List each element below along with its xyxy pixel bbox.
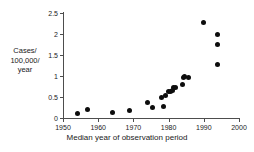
x-axis-label: Median year of observation period bbox=[0, 133, 254, 142]
y-tick-mark bbox=[60, 76, 63, 77]
chart-title bbox=[0, 0, 254, 3]
x-tick-mark bbox=[239, 119, 240, 122]
data-point bbox=[127, 108, 132, 113]
y-tick-mark bbox=[60, 97, 63, 98]
y-axis-label-line-2: 100,000/ bbox=[0, 56, 50, 66]
chart-figure: Cases/ 100,000/ year 00.511.522.5 195019… bbox=[0, 0, 254, 152]
y-axis-label-line-1: Cases/ bbox=[0, 46, 50, 56]
x-tick-label: 1980 bbox=[161, 124, 177, 131]
x-tick-mark bbox=[98, 119, 99, 122]
data-point bbox=[85, 107, 90, 112]
data-point bbox=[215, 32, 220, 37]
y-tick-label: 2.5 bbox=[48, 10, 58, 17]
data-point bbox=[110, 110, 115, 115]
y-axis-label-line-3: year bbox=[0, 65, 50, 75]
y-tick-label: 2 bbox=[54, 31, 58, 38]
y-tick-label: 1.5 bbox=[48, 52, 58, 59]
x-tick-mark bbox=[63, 119, 64, 122]
y-tick-mark bbox=[60, 55, 63, 56]
x-tick-mark bbox=[204, 119, 205, 122]
y-tick-label: 1 bbox=[54, 73, 58, 80]
data-point bbox=[75, 111, 80, 116]
y-tick-label: 0 bbox=[54, 115, 58, 122]
data-point bbox=[145, 100, 150, 105]
x-tick-label: 1990 bbox=[196, 124, 212, 131]
x-tick-label: 2000 bbox=[231, 124, 247, 131]
y-tick-label: 0.5 bbox=[48, 94, 58, 101]
data-point bbox=[215, 62, 220, 67]
data-point bbox=[201, 20, 206, 25]
x-tick-mark bbox=[133, 119, 134, 122]
x-tick-mark bbox=[169, 119, 170, 122]
data-point bbox=[180, 82, 185, 87]
data-point bbox=[150, 105, 155, 110]
plot-area: 00.511.522.5 bbox=[63, 13, 239, 118]
data-point bbox=[173, 85, 178, 90]
data-point bbox=[215, 42, 220, 47]
data-point bbox=[161, 104, 166, 109]
x-tick-label: 1970 bbox=[126, 124, 142, 131]
data-point bbox=[186, 75, 191, 80]
y-axis-label: Cases/ 100,000/ year bbox=[0, 46, 50, 75]
x-tick-label: 1960 bbox=[90, 124, 106, 131]
y-tick-mark bbox=[60, 13, 63, 14]
x-tick-label: 1950 bbox=[55, 124, 71, 131]
y-tick-mark bbox=[60, 34, 63, 35]
data-point bbox=[163, 93, 168, 98]
